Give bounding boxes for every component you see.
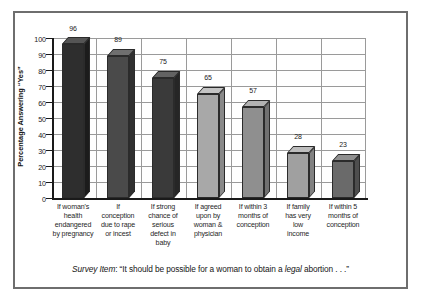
bar-value-label-4: 65	[188, 74, 228, 81]
y-tick-label-70: 70	[20, 83, 46, 92]
bar-front	[152, 78, 174, 198]
y-tick-label-10: 10	[20, 179, 46, 188]
y-tick-label-50: 50	[20, 115, 46, 124]
caption-mid: : “It should be possible for a woman to …	[115, 264, 284, 274]
bar-side-face	[129, 49, 135, 198]
bar-4	[197, 94, 219, 198]
bar-value-label-5: 57	[233, 87, 273, 94]
bar-front	[107, 56, 129, 198]
bar-front	[197, 94, 219, 198]
y-tick-label-20: 20	[20, 163, 46, 172]
category-label-line: conception	[314, 221, 372, 230]
survey-item-caption: Survey Item: “It should be possible for …	[20, 264, 401, 274]
category-label-line: physician	[180, 230, 236, 239]
category-label-line: baby	[135, 239, 191, 248]
bar-value-label-3: 75	[143, 58, 183, 65]
bar-value-label-7: 23	[323, 141, 363, 148]
y-tick-label-30: 30	[20, 147, 46, 156]
category-separator	[321, 38, 322, 198]
category-separator	[276, 38, 277, 198]
bar-side-face	[354, 154, 360, 198]
bar-side-face	[219, 87, 225, 198]
bar-front	[332, 161, 354, 198]
caption-emphasis-legal: legal	[285, 264, 302, 274]
category-separator	[96, 38, 97, 198]
bar-2	[107, 56, 129, 198]
category-label-7: If within 5 months of conception	[314, 203, 372, 230]
bar-1	[62, 44, 84, 198]
y-tick-label-60: 60	[20, 99, 46, 108]
category-separator	[231, 38, 232, 198]
y-tick-label-80: 80	[20, 67, 46, 76]
x-axis-line	[52, 198, 368, 200]
y-tick-label-40: 40	[20, 131, 46, 140]
caption-suffix: abortion . . .”	[302, 264, 349, 274]
caption-prefix: Survey Item	[72, 264, 115, 274]
y-axis-line	[52, 38, 54, 199]
bar-front	[242, 107, 264, 198]
plot-area: 96 89 75 65 57 28 23	[52, 38, 366, 198]
bar-front	[62, 44, 84, 198]
bar-side-face	[174, 71, 180, 198]
category-label-line: income	[270, 230, 326, 239]
bar-6	[287, 153, 309, 198]
bar-side-face	[309, 146, 315, 198]
category-label-line: months of	[314, 212, 372, 221]
bar-value-label-1: 96	[53, 25, 93, 32]
bar-value-label-6: 28	[278, 133, 318, 140]
gridline	[52, 70, 366, 71]
x-axis-category-labels: If woman's health endangered by pregnanc…	[52, 203, 368, 259]
y-tick-label-100: 100	[20, 35, 46, 44]
bar-value-label-2: 89	[98, 36, 138, 43]
y-tick-label-0: 0	[20, 195, 46, 204]
bar-side-face	[264, 100, 270, 198]
bar-5	[242, 107, 264, 198]
y-tick-label-90: 90	[20, 51, 46, 60]
bar-side-face	[84, 38, 90, 198]
bar-7	[332, 161, 354, 198]
category-separator	[365, 38, 366, 198]
y-axis-tick-labels: 100 90 80 70 60 50 40 30 20 10 0	[12, 0, 46, 300]
category-separator	[186, 38, 187, 198]
gridline	[52, 54, 366, 55]
bar-3	[152, 78, 174, 198]
category-separator	[141, 38, 142, 198]
chart-figure: Percentage Answering “Yes” 100 90 80 70 …	[0, 0, 421, 300]
bar-front	[287, 153, 309, 198]
category-label-line: If within 5	[314, 203, 372, 212]
